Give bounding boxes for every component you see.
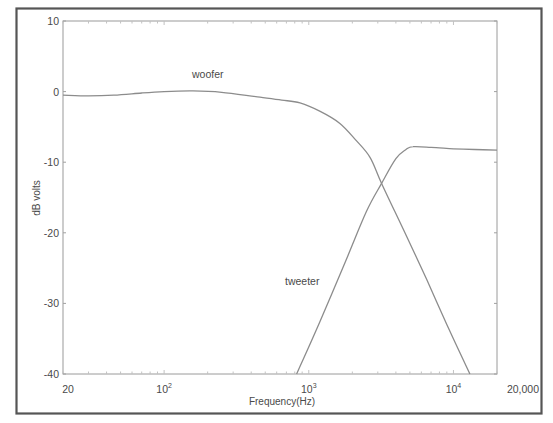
x-axis: 2010210310420,000: [62, 382, 539, 395]
woofer-label: woofer: [191, 68, 224, 80]
y-tick-label: 10: [47, 15, 59, 27]
y-tick-label: 0: [53, 86, 59, 98]
y-tick-label: -20: [44, 227, 59, 239]
y-tick-label: -30: [44, 297, 59, 309]
plot-area: [63, 21, 497, 374]
y-tick-label: -10: [44, 156, 59, 168]
chart-canvas: 100-10-20-30-40 2010210310420,000 woofer…: [0, 0, 553, 423]
x-tick-label: 103: [301, 382, 317, 395]
y-axis-title: dB volts: [31, 180, 42, 216]
x-tick-label: 20,000: [507, 383, 539, 395]
tweeter-label: tweeter: [285, 275, 320, 287]
frequency-response-chart: 100-10-20-30-40 2010210310420,000 woofer…: [0, 0, 553, 423]
x-axis-title: Frequency(Hz): [249, 396, 315, 407]
x-tick-label: 20: [62, 383, 74, 395]
x-tick-label: 104: [446, 382, 462, 395]
x-tick-label: 102: [156, 382, 172, 395]
y-tick-label: -40: [44, 368, 59, 380]
